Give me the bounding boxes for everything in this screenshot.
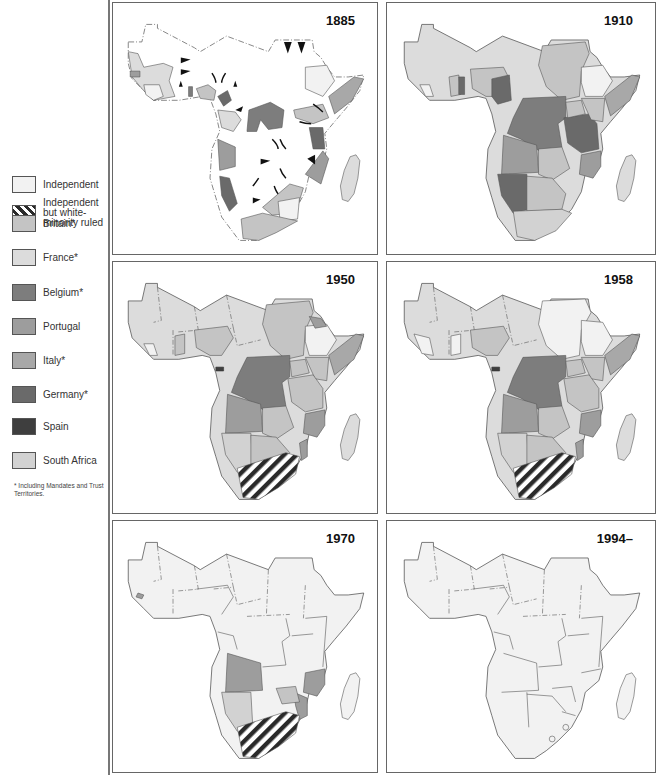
swatch-france bbox=[12, 249, 36, 266]
map-panel-1958: 1958 bbox=[386, 261, 656, 514]
legend-item-britain: Britain* bbox=[12, 215, 75, 232]
africa-map-1950 bbox=[113, 262, 379, 515]
africa-map-1910 bbox=[387, 3, 657, 256]
legend-item-south-africa: South Africa bbox=[12, 452, 97, 469]
legend-label: South Africa bbox=[43, 456, 97, 466]
legend-item-portugal: Portugal bbox=[12, 318, 80, 335]
swatch-south-africa bbox=[12, 452, 36, 469]
legend-label: France* bbox=[43, 253, 78, 263]
legend-item-germany: Germany* bbox=[12, 386, 88, 403]
legend-label: Germany* bbox=[43, 390, 88, 400]
swatch-italy bbox=[12, 352, 36, 369]
map-panel-1885: 1885 bbox=[112, 2, 378, 255]
year-label: 1970 bbox=[326, 531, 355, 546]
legend-item-italy: Italy* bbox=[12, 352, 65, 369]
swatch-germany bbox=[12, 386, 36, 403]
legend-label: Belgium* bbox=[43, 288, 83, 298]
swatch-independent bbox=[12, 176, 36, 193]
year-label: 1950 bbox=[326, 272, 355, 287]
legend-item-spain: Spain bbox=[12, 418, 69, 435]
year-label: 1885 bbox=[326, 13, 355, 28]
year-label: 1958 bbox=[604, 272, 633, 287]
legend-label: Spain bbox=[43, 422, 69, 432]
legend-label: Independent bbox=[43, 180, 99, 190]
legend-item-belgium: Belgium* bbox=[12, 284, 83, 301]
legend-label: Italy* bbox=[43, 356, 65, 366]
africa-map-1958 bbox=[387, 262, 657, 515]
map-panel-1970: 1970 bbox=[112, 520, 378, 773]
legend-item-independent: Independent bbox=[12, 176, 99, 193]
legend-label: Portugal bbox=[43, 322, 80, 332]
africa-map-1994 bbox=[387, 521, 657, 774]
africa-map-1970 bbox=[113, 521, 379, 774]
year-label: 1994– bbox=[597, 531, 633, 546]
swatch-britain bbox=[12, 215, 36, 232]
map-panel-1910: 1910 bbox=[386, 2, 656, 255]
map-panel-1950: 1950 bbox=[112, 261, 378, 514]
swatch-spain bbox=[12, 418, 36, 435]
swatch-portugal bbox=[12, 318, 36, 335]
swatch-belgium bbox=[12, 284, 36, 301]
africa-map-1885 bbox=[113, 3, 379, 256]
legend-item-france: France* bbox=[12, 249, 78, 266]
map-panel-1994: 1994– bbox=[386, 520, 656, 773]
year-label: 1910 bbox=[604, 13, 633, 28]
legend: Independent Independent but white-minori… bbox=[0, 0, 110, 775]
legend-label: Britain* bbox=[43, 219, 75, 229]
legend-footnote: * Including Mandates and Trust Territori… bbox=[14, 482, 106, 498]
